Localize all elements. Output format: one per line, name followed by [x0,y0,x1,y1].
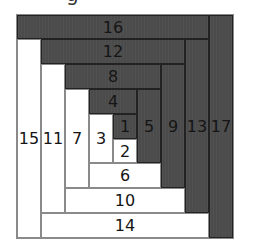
piece-label: 15 [19,129,39,148]
piece-label: 16 [103,18,123,37]
piece-2: 2 [113,139,137,163]
piece-label: 10 [115,191,135,210]
piece-label: 11 [43,129,63,148]
piece-3: 3 [89,114,113,163]
piece-8: 8 [65,64,161,89]
piece-15: 15 [17,39,41,238]
piece-label: 5 [144,117,154,136]
piece-14: 14 [41,213,209,238]
log-cabin-diagram: 1617121389451236710111415 [17,15,233,238]
piece-12: 12 [41,39,185,64]
piece-label: 2 [120,142,130,161]
piece-9: 9 [161,64,185,188]
caption-fragment: g [66,0,79,4]
piece-label: 12 [103,42,123,61]
piece-label: 14 [115,216,135,235]
piece-16: 16 [17,15,209,39]
piece-label: 9 [168,117,178,136]
piece-label: 6 [120,166,130,185]
piece-10: 10 [65,188,185,213]
piece-1: 1 [113,114,137,139]
piece-4: 4 [89,89,137,114]
piece-label: 4 [108,92,118,111]
piece-label: 1 [120,117,130,136]
piece-17: 17 [209,15,233,238]
piece-5: 5 [137,89,161,163]
piece-label: 8 [108,67,118,86]
piece-6: 6 [89,163,161,188]
piece-7: 7 [65,89,89,188]
piece-11: 11 [41,64,65,213]
piece-label: 13 [187,117,207,136]
piece-13: 13 [185,39,209,213]
piece-label: 17 [211,117,231,136]
piece-label: 3 [96,129,106,148]
piece-label: 7 [72,129,82,148]
